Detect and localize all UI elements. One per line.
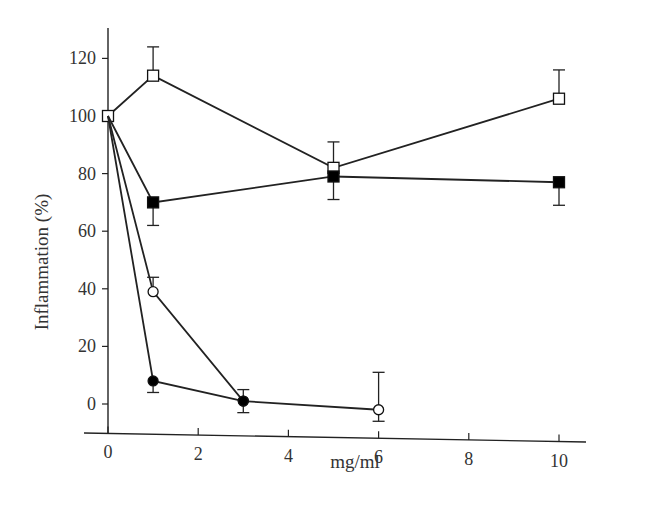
y-tick-label: 120 [69, 48, 96, 68]
x-tick-label: 4 [284, 446, 293, 466]
open-square-marker [148, 70, 159, 81]
y-tick-label: 80 [78, 164, 96, 184]
x-tick-label: 0 [104, 442, 113, 462]
filled-circle-marker [148, 376, 158, 386]
series-filled-circle [108, 116, 248, 406]
line-chart: 0204060801001200246810 mg/ml Inflammatio… [0, 0, 653, 530]
x-axis-line [84, 433, 586, 442]
y-tick-label: 100 [69, 106, 96, 126]
y-tick-label: 0 [87, 394, 96, 414]
series-line [108, 116, 379, 410]
open-circle-marker [374, 405, 384, 415]
x-axis-label: mg/ml [330, 451, 380, 472]
series-open-square [103, 47, 566, 173]
filled-square-marker [148, 197, 159, 208]
open-square-marker [554, 93, 565, 104]
x-tick-label: 2 [194, 444, 203, 464]
open-circle-marker [148, 287, 158, 297]
y-axis-label: Inflammation (%) [31, 194, 53, 331]
series-open-circle [108, 116, 385, 421]
x-tick-label: 8 [464, 449, 473, 469]
series-group [103, 47, 566, 421]
filled-square-marker [554, 177, 565, 188]
series-filled-square [108, 116, 565, 225]
y-tick-label: 60 [78, 221, 96, 241]
axes: 0204060801001200246810 [69, 28, 586, 471]
filled-square-marker [328, 171, 339, 182]
series-line [108, 116, 243, 401]
x-tick-label: 10 [550, 451, 568, 471]
y-tick-label: 40 [78, 279, 96, 299]
y-tick-label: 20 [78, 336, 96, 356]
filled-circle-marker [238, 396, 248, 406]
